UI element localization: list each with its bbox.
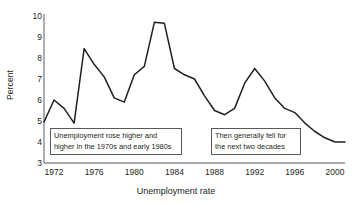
annotation-right-line2: the next two decades — [215, 142, 297, 153]
plot-area — [0, 0, 352, 206]
unemployment-rate-line-chart: Percent 109876543 1972197619801984198819… — [0, 0, 352, 206]
annotation-right-line1: Then generally fell for — [215, 131, 297, 142]
annotation-right: Then generally fell for the next two dec… — [211, 128, 301, 155]
annotation-left-line2: higher in the 1970s and early 1980s — [54, 142, 178, 153]
x-axis-title: Unemployment rate — [0, 186, 352, 196]
annotation-left-line1: Unemployment rose higher and — [54, 131, 178, 142]
unemployment-rate-series-line — [44, 22, 345, 142]
annotation-left: Unemployment rose higher and higher in t… — [50, 128, 182, 155]
